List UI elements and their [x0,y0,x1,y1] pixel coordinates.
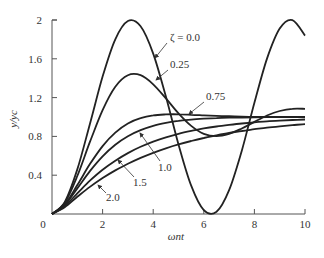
x-tick-label: 6 [201,218,207,230]
leader-arrow [98,185,106,193]
series-annotation: 1.5 [133,176,147,188]
series-annotation: 1.0 [158,161,172,173]
y-tick-label: 0.4 [28,169,42,181]
leader-arrow [156,70,168,80]
series-curve [52,124,305,214]
series-annotation: 2.0 [106,191,120,203]
series-annotation: 0.75 [206,90,226,102]
step-response-chart: 0.40.81.21.620246810 ζ = 0.00.250.751.01… [0,0,324,258]
x-tick-label: 4 [150,218,156,230]
y-tick-label: 0.8 [28,130,42,142]
x-tick-label: 10 [300,218,312,230]
y-tick-label: 1.2 [28,92,42,104]
leader-arrow [155,43,167,58]
y-axis-label: y/yc [7,110,19,129]
y-tick-label: 2 [37,14,43,26]
series-annotation: 0.25 [170,58,190,70]
series-curve [52,114,305,214]
x-tick-label: 8 [252,218,258,230]
x-tick-label: 2 [100,218,106,230]
curves [52,20,305,214]
series-curve [52,120,305,215]
leader-arrow [189,102,204,114]
series-annotation: ζ = 0.0 [170,31,201,44]
x-tick-label: 0 [40,218,46,230]
y-tick-label: 1.6 [28,53,42,65]
annotations: ζ = 0.00.250.751.01.52.0 [98,31,226,203]
x-axis-label: ωnt [168,230,185,242]
